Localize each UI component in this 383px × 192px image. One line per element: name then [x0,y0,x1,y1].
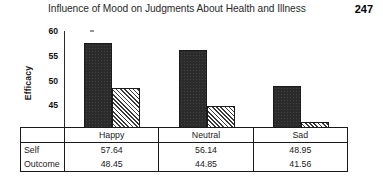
y-tick-label-60: 60 [48,27,58,36]
y-tick-label-55: 55 [48,51,58,60]
table-col-header-neutral: Neutral [159,128,253,142]
table-cell-outcome-sad: 41.56 [254,157,347,171]
bar-chart: Efficacy 4045505560 [0,22,383,134]
page-number: 247 [355,3,373,15]
table-cell-self-sad: 48.95 [254,143,347,157]
y-tick-label-45: 45 [48,101,58,110]
data-table: Happy Neutral Sad Self 57.64 56.14 48.95… [20,127,348,172]
table-col-header-sad: Sad [254,128,347,142]
table-cell-outcome-neutral: 44.85 [159,157,253,171]
table-corner-cell [21,128,65,142]
plot-area [65,31,348,130]
table-row: Outcome 48.45 44.85 41.56 [21,157,347,171]
table-cell-self-neutral: 56.14 [159,143,253,157]
bar-outcome-happy [112,88,140,130]
bar-self-happy [84,43,112,130]
y-tick-label-50: 50 [48,76,58,85]
table-cell-outcome-happy: 48.45 [65,157,159,171]
y-axis-ticks: 4045505560 [30,22,62,134]
table-cell-self-happy: 57.64 [65,143,159,157]
bar-self-sad [273,86,301,130]
table-row: Self 57.64 56.14 48.95 [21,143,347,157]
table-row-label-outcome: Outcome [21,157,65,171]
page-title: Influence of Mood on Judgments About Hea… [48,3,306,14]
page-header: Influence of Mood on Judgments About Hea… [0,3,383,19]
table-row-label-self: Self [21,143,65,157]
bar-self-neutral [179,50,207,130]
table-col-header-happy: Happy [65,128,159,142]
table-header-row: Happy Neutral Sad [21,128,347,143]
